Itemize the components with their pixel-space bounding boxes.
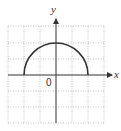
x-axis-label: x <box>113 68 119 80</box>
y-axis-label: y <box>50 3 56 15</box>
origin-label: 0 <box>46 77 52 88</box>
coordinate-plane: y x 0 <box>0 0 121 131</box>
